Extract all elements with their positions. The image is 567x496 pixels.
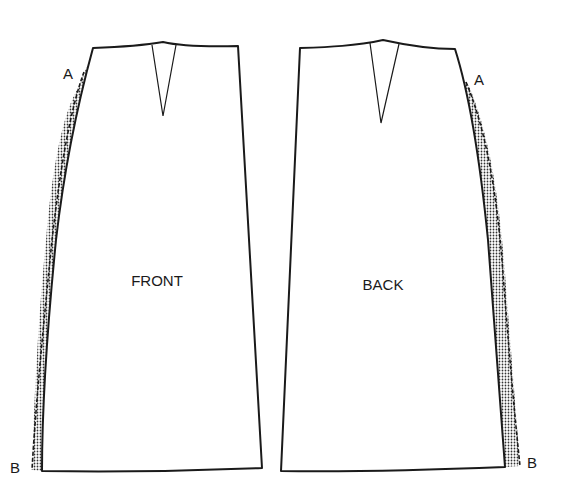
back-piece: BACK A B (281, 40, 537, 471)
back-label: BACK (363, 276, 404, 293)
front-point-b-label: B (10, 459, 20, 476)
back-point-a-label: A (474, 71, 484, 88)
front-label: FRONT (131, 272, 183, 289)
back-point-b-label: B (527, 454, 537, 471)
front-piece: FRONT A B (10, 42, 262, 476)
front-point-a-label: A (63, 65, 73, 82)
pattern-diagram: FRONT A B BACK A B (0, 0, 567, 496)
